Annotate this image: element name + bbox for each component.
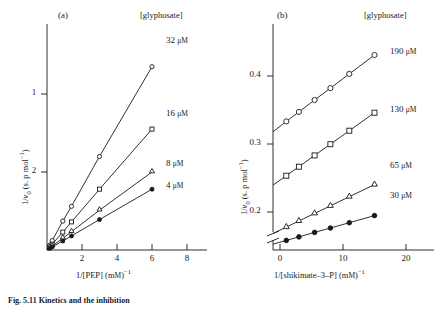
panel-a-series-label-8: 8 μM bbox=[166, 158, 183, 168]
panel-a-y-axis-title: 1/v0 (s. p mol−1) bbox=[18, 149, 32, 205]
panel-b-series-label-190: 190 μM bbox=[390, 46, 416, 56]
panel-a-series-value-16: 16 bbox=[166, 108, 175, 118]
panel-b-series-label-30: 30 μM bbox=[390, 190, 412, 200]
panel-a-xtick-label-8: 8 bbox=[181, 253, 193, 263]
panel-a-x-axis-title-main: 1/[PEP] (m bbox=[76, 270, 115, 280]
panel-a-series-unit-16: μM bbox=[177, 109, 188, 118]
panel-b-legend-header: [glyphosate] bbox=[364, 10, 407, 20]
panel-a-markers-8 bbox=[47, 169, 154, 249]
panel-a: (a) [glyphosate] bbox=[0, 0, 222, 300]
panel-a-label: (a) bbox=[58, 10, 68, 20]
panel-a-series-value-4: 4 bbox=[166, 180, 171, 190]
panel-a-x-axis-title: 1/[PEP] (mM)−1 bbox=[76, 268, 131, 280]
panel-b-series-value-30: 30 bbox=[390, 190, 399, 200]
panel-b-series-unit-130: μM bbox=[406, 105, 417, 114]
panel-a-legend-header: [glyphosate] bbox=[140, 10, 183, 20]
panel-b-series-label-130: 130 μM bbox=[390, 104, 416, 114]
panel-a-xtick-label-6: 6 bbox=[146, 253, 158, 263]
panel-a-series-unit-4: μM bbox=[173, 181, 184, 190]
panel-a-series-label-32: 32 μM bbox=[166, 35, 188, 45]
panel-b-series-label-65: 65 μM bbox=[390, 160, 412, 170]
panel-a-x-axis-sup: −1 bbox=[124, 268, 131, 275]
panel-a-series-unit-8: μM bbox=[173, 159, 184, 168]
panel-b-series-unit-190: μM bbox=[406, 47, 417, 56]
panel-b: (b) [glyphosate] bbox=[222, 0, 444, 300]
panel-a-series-label-16: 16 μM bbox=[166, 108, 188, 118]
panel-b-xtick-label-20: 20 bbox=[398, 253, 414, 263]
panel-b-y-axis-title: 1/v0 (s. p mol−1) bbox=[237, 159, 251, 215]
panel-b-markers-30 bbox=[284, 213, 377, 242]
panel-a-series-value-32: 32 bbox=[166, 35, 175, 45]
panel-b-x-axis-title-main: 1/[shikimate–3–P] (m bbox=[274, 270, 348, 280]
panel-b-ytick-label-04: 0.4 bbox=[244, 69, 266, 79]
panel-b-series-unit-65: μM bbox=[401, 161, 412, 170]
panel-b-series-value-190: 190 bbox=[390, 46, 404, 56]
panel-a-x-axis-unit: M bbox=[115, 271, 122, 280]
panel-b-series-value-65: 65 bbox=[390, 160, 399, 170]
panel-a-series-label-4: 4 μM bbox=[166, 180, 183, 190]
panel-b-markers-65 bbox=[283, 181, 377, 229]
panel-b-xtick-label-10: 10 bbox=[335, 253, 351, 263]
panel-b-xtick-label-0: 0 bbox=[274, 253, 286, 263]
figure-container: (a) [glyphosate] bbox=[0, 0, 444, 311]
panel-b-ytick-label-03: 0.3 bbox=[244, 137, 266, 147]
panel-b-series-unit-30: μM bbox=[401, 191, 412, 200]
panel-a-series-unit-32: μM bbox=[177, 36, 188, 45]
panel-a-xtick-label-2: 2 bbox=[76, 253, 88, 263]
panel-a-ytick-label-1: 1 bbox=[28, 87, 40, 97]
panel-b-label: (b) bbox=[277, 10, 288, 20]
figure-caption: Fig. 5.11 Kinetics and the inhibition bbox=[8, 296, 438, 305]
panel-a-series-value-8: 8 bbox=[166, 158, 171, 168]
panel-b-series-value-130: 130 bbox=[390, 104, 404, 114]
panel-a-xtick-label-4: 4 bbox=[111, 253, 123, 263]
figure-caption-text: Fig. 5.11 Kinetics and the inhibition bbox=[8, 296, 130, 305]
panel-b-x-axis-unit: M bbox=[348, 271, 355, 280]
panel-b-x-axis-sup: −1 bbox=[358, 268, 365, 275]
panel-b-x-axis-title: 1/[shikimate–3–P] (mM)−1 bbox=[274, 268, 365, 280]
